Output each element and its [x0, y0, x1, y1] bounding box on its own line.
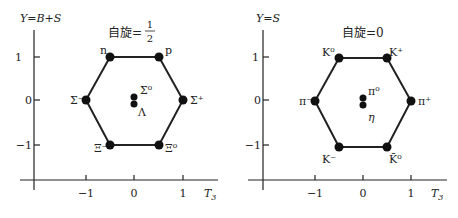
particle-label: K⁻	[322, 153, 336, 166]
meson-octet-diagram: Y=S 1 0 −1 −1 0 1 T3 自旋=0 K⁰ K⁺ π⁻ π⁺ π⁰…	[245, 12, 447, 202]
particle-label: K̄⁰	[389, 153, 402, 166]
y-tick-label: −1	[245, 139, 261, 152]
particle-label: Ξ⁻	[94, 142, 108, 155]
x-tick-label: 0	[360, 187, 367, 200]
particle-label: π⁺	[418, 95, 431, 108]
particle-label: Λ	[137, 106, 147, 119]
spin-title: 自旋=	[108, 26, 142, 40]
x-tick-label: −1	[307, 187, 323, 200]
y-tick-label: −1	[16, 139, 32, 152]
particle-label: Ξ⁰	[165, 142, 178, 155]
particle-label: Σ⁻	[70, 94, 84, 107]
spin-frac-den: 2	[147, 33, 153, 44]
x-tick-label: 1	[180, 187, 187, 200]
y-axis-label: Y=B+S	[20, 12, 62, 25]
baryon-octet-diagram: Y=B+S 1 0 −1 −1 0 1 T3 自旋= 1 2 n p Σ⁻ Σ⁺…	[15, 12, 218, 202]
particle-label: π⁻	[299, 95, 312, 108]
particle-label: Σ⁰	[140, 84, 153, 97]
y-axis-label: Y=S	[256, 12, 280, 25]
y-tick-label: 0	[25, 94, 32, 107]
spin-title: 自旋=0	[342, 26, 384, 40]
particle-label: p	[165, 44, 172, 57]
particle-label: Σ⁺	[190, 94, 204, 107]
y-tick-label: 1	[252, 51, 259, 64]
x-tick-label: 1	[408, 187, 415, 200]
x-tick-label: −1	[78, 187, 94, 200]
spin-frac-num: 1	[147, 19, 153, 30]
x-axis-label: T3	[204, 187, 216, 202]
particle-label: π⁰	[368, 85, 380, 98]
x-tick-label: 0	[131, 187, 138, 200]
particle-label: n	[100, 44, 107, 57]
particle-label: K⁺	[389, 46, 403, 59]
octet-diagrams: Y=B+S 1 0 −1 −1 0 1 T3 自旋= 1 2 n p Σ⁻ Σ⁺…	[0, 0, 458, 218]
y-tick-label: 0	[254, 94, 261, 107]
x-axis-label: T3	[431, 187, 443, 202]
particle-label: K⁰	[322, 46, 335, 59]
y-tick-label: 1	[15, 51, 22, 64]
particle-label: η	[368, 111, 375, 124]
